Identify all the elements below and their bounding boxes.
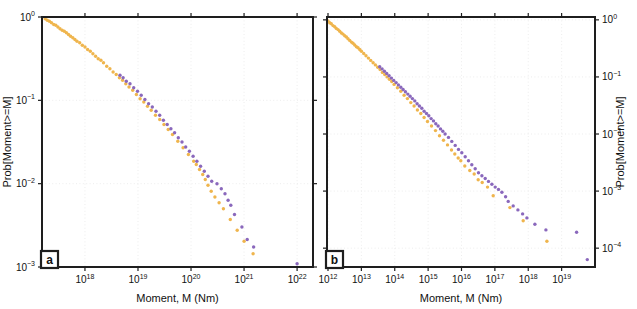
data-point <box>222 207 225 210</box>
data-point <box>416 108 419 111</box>
data-point <box>236 229 239 232</box>
x-tick-label: 1016 <box>452 273 471 286</box>
data-point <box>173 131 176 134</box>
data-point <box>229 218 232 221</box>
data-point <box>143 98 146 101</box>
data-point <box>420 107 423 110</box>
figure-canvas: 1018101910201021102210010−110−210−3Momen… <box>0 0 637 309</box>
x-tick-label: 1022 <box>288 273 307 286</box>
series-orange <box>44 17 255 255</box>
data-point <box>508 206 511 209</box>
x-axis-title: Moment, M (Nm) <box>420 292 503 304</box>
panel-a: 1018101910201021102210010−110−210−3Momen… <box>1 10 317 304</box>
data-point <box>91 52 94 55</box>
data-point <box>427 114 430 117</box>
data-point <box>154 110 157 113</box>
data-point <box>111 70 114 73</box>
data-point <box>521 212 524 215</box>
data-point <box>457 148 460 151</box>
x-tick-label: 1017 <box>485 273 504 286</box>
data-point <box>512 204 515 207</box>
data-point <box>436 124 439 127</box>
plot-frame <box>327 17 595 267</box>
data-point <box>229 204 232 207</box>
data-point <box>490 183 493 186</box>
data-point <box>195 163 198 166</box>
data-point <box>447 136 450 139</box>
data-point <box>108 67 111 70</box>
data-point <box>454 144 457 147</box>
panel-b: 1012101310141015101610171018101910010−11… <box>319 13 626 304</box>
data-point <box>78 41 81 44</box>
data-point <box>507 200 510 203</box>
data-point <box>180 140 183 143</box>
data-point <box>504 195 507 198</box>
series-orange <box>326 19 548 243</box>
data-point <box>240 225 243 228</box>
data-point <box>242 240 245 243</box>
data-point <box>151 105 154 108</box>
data-point <box>150 109 153 112</box>
data-point <box>442 139 445 142</box>
data-point <box>102 61 105 64</box>
x-tick-label: 1013 <box>352 273 371 286</box>
data-point <box>166 123 169 126</box>
data-point <box>125 80 128 83</box>
data-point <box>127 85 130 88</box>
x-tick-label: 1018 <box>519 273 538 286</box>
data-point <box>457 156 460 159</box>
data-point <box>481 181 484 184</box>
data-point <box>252 245 255 248</box>
data-point <box>522 219 525 222</box>
data-point <box>223 192 226 195</box>
y-tick-label: 100 <box>20 10 35 23</box>
data-point <box>184 145 187 148</box>
data-point <box>402 94 405 97</box>
data-point <box>426 120 429 123</box>
panel-tag-label: b <box>331 253 338 267</box>
data-point <box>453 152 456 155</box>
data-point <box>463 164 466 167</box>
data-point <box>99 59 102 62</box>
data-point <box>187 153 190 156</box>
data-point <box>575 231 578 234</box>
data-point <box>135 93 138 96</box>
x-tick-label: 1012 <box>319 273 338 286</box>
data-point <box>413 99 416 102</box>
data-point <box>105 65 108 68</box>
y-tick-label: 10−1 <box>16 93 35 106</box>
x-tick-label: 1019 <box>552 273 571 286</box>
data-point <box>220 187 223 190</box>
data-point <box>128 82 131 85</box>
data-point <box>544 228 547 231</box>
x-tick-label: 1019 <box>129 273 148 286</box>
y-tick-label: 100 <box>602 13 617 26</box>
y-axis-title: Prob[Moment>=M] <box>1 96 13 187</box>
data-point <box>412 104 415 107</box>
data-point <box>154 114 157 117</box>
data-point <box>494 185 497 188</box>
data-point <box>201 173 204 176</box>
ticks <box>323 13 599 271</box>
data-point <box>492 194 495 197</box>
data-point <box>147 102 150 105</box>
data-point <box>430 124 433 127</box>
data-point <box>459 159 462 162</box>
data-point <box>226 199 229 202</box>
data-point <box>162 123 165 126</box>
data-point <box>409 101 412 104</box>
data-point <box>487 180 490 183</box>
data-point <box>233 213 236 216</box>
data-point <box>450 140 453 143</box>
data-point <box>83 45 86 48</box>
data-point <box>115 73 118 76</box>
y-tick-label: 10−4 <box>602 241 621 254</box>
data-point <box>246 238 249 241</box>
data-point <box>434 129 437 132</box>
data-point <box>477 178 480 181</box>
tick-labels: 1018101910201021102210010−110−210−3 <box>16 10 307 285</box>
data-point <box>441 130 444 133</box>
panel-tag-label: a <box>46 253 53 267</box>
data-point <box>484 177 487 180</box>
x-tick-label: 1018 <box>75 273 94 286</box>
